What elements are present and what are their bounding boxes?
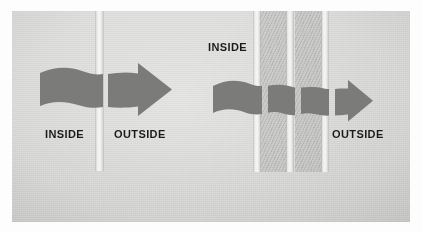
- label-inside-multi: INSIDE: [208, 41, 247, 53]
- arrow-segment-1: [213, 81, 262, 115]
- arrow-segment-3: [301, 87, 329, 116]
- label-outside-single: OUTSIDE: [114, 128, 166, 140]
- label-inside-single: INSIDE: [45, 128, 84, 140]
- flow-arrow-single: [32, 63, 192, 121]
- arrow-segment-2: [268, 85, 295, 115]
- arrow-segment-4-head: [335, 80, 373, 122]
- figure-root: INSIDE OUTSIDE INSIDE OUTSIDE: [0, 0, 422, 232]
- label-outside-multi: OUTSIDE: [332, 128, 384, 140]
- scanned-photograph: INSIDE OUTSIDE INSIDE OUTSIDE: [12, 11, 410, 222]
- arrow-tail-segment: [40, 68, 103, 108]
- arrow-head-segment: [108, 63, 172, 116]
- flow-arrow-multi: [208, 75, 378, 127]
